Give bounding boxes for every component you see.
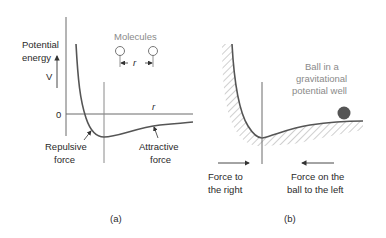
right-force-label-line1: Force on the <box>291 171 344 182</box>
attractive-label-line2: force <box>150 154 171 165</box>
ball-label-line1: Ball in a <box>305 61 340 72</box>
separation-label: r <box>133 57 137 68</box>
molecule-icon <box>149 47 158 68</box>
ball-label-line3: potential well <box>292 85 347 96</box>
caption-b: (b) <box>284 213 296 224</box>
panel-a: Potential energy V 0 r Molecules r Repul… <box>22 17 193 224</box>
left-force-label-line2: the right <box>208 184 243 195</box>
zero-label: 0 <box>56 109 61 120</box>
repulsive-label-line1: Repulsive <box>45 141 87 152</box>
panel-b: Ball in a gravitational potential well F… <box>208 44 363 224</box>
right-force-label-line2: ball to the left <box>287 184 344 195</box>
attractive-label-line1: Attractive <box>139 141 179 152</box>
ball-label-line2: gravitational <box>296 73 347 84</box>
r-axis-label: r <box>152 101 156 112</box>
molecule-icon <box>116 47 125 68</box>
caption-a: (a) <box>110 213 122 224</box>
repulsive-pointer-icon <box>84 131 91 140</box>
y-axis-label-line1: Potential <box>22 39 59 50</box>
y-axis-label-line2: energy <box>22 52 51 63</box>
left-force-label-line1: Force to <box>208 171 243 182</box>
attractive-pointer-icon <box>154 127 158 138</box>
ball-icon <box>338 107 351 120</box>
repulsive-label-line2: force <box>54 154 75 165</box>
molecules-label: Molecules <box>114 31 157 42</box>
v-symbol: V <box>46 71 53 82</box>
